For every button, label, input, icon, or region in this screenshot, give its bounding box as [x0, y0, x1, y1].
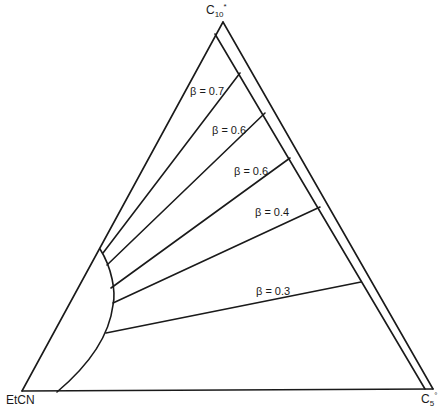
ternary-diagram	[0, 0, 445, 410]
triangle-right-edge-inner	[215, 34, 425, 389]
triangle-left-edge	[22, 22, 223, 391]
vertex-label-top: C10*	[206, 2, 227, 19]
tie-line-label: β = 0.6	[234, 165, 268, 177]
tie-line-label: β = 0.6	[212, 124, 246, 136]
tie-line-0.7	[103, 73, 240, 253]
tie-line-label: β = 0.7	[190, 85, 224, 97]
triangle-base	[22, 389, 433, 391]
vertex-label-bottom-left: EtCN	[6, 393, 35, 407]
binodal-curve	[57, 249, 114, 392]
tie-line-label: β = 0.4	[255, 206, 289, 218]
vertex-label-bottom-right: C5°	[421, 391, 437, 408]
tie-line-0.3	[106, 282, 361, 333]
tie-line-label: β = 0.3	[256, 285, 290, 297]
